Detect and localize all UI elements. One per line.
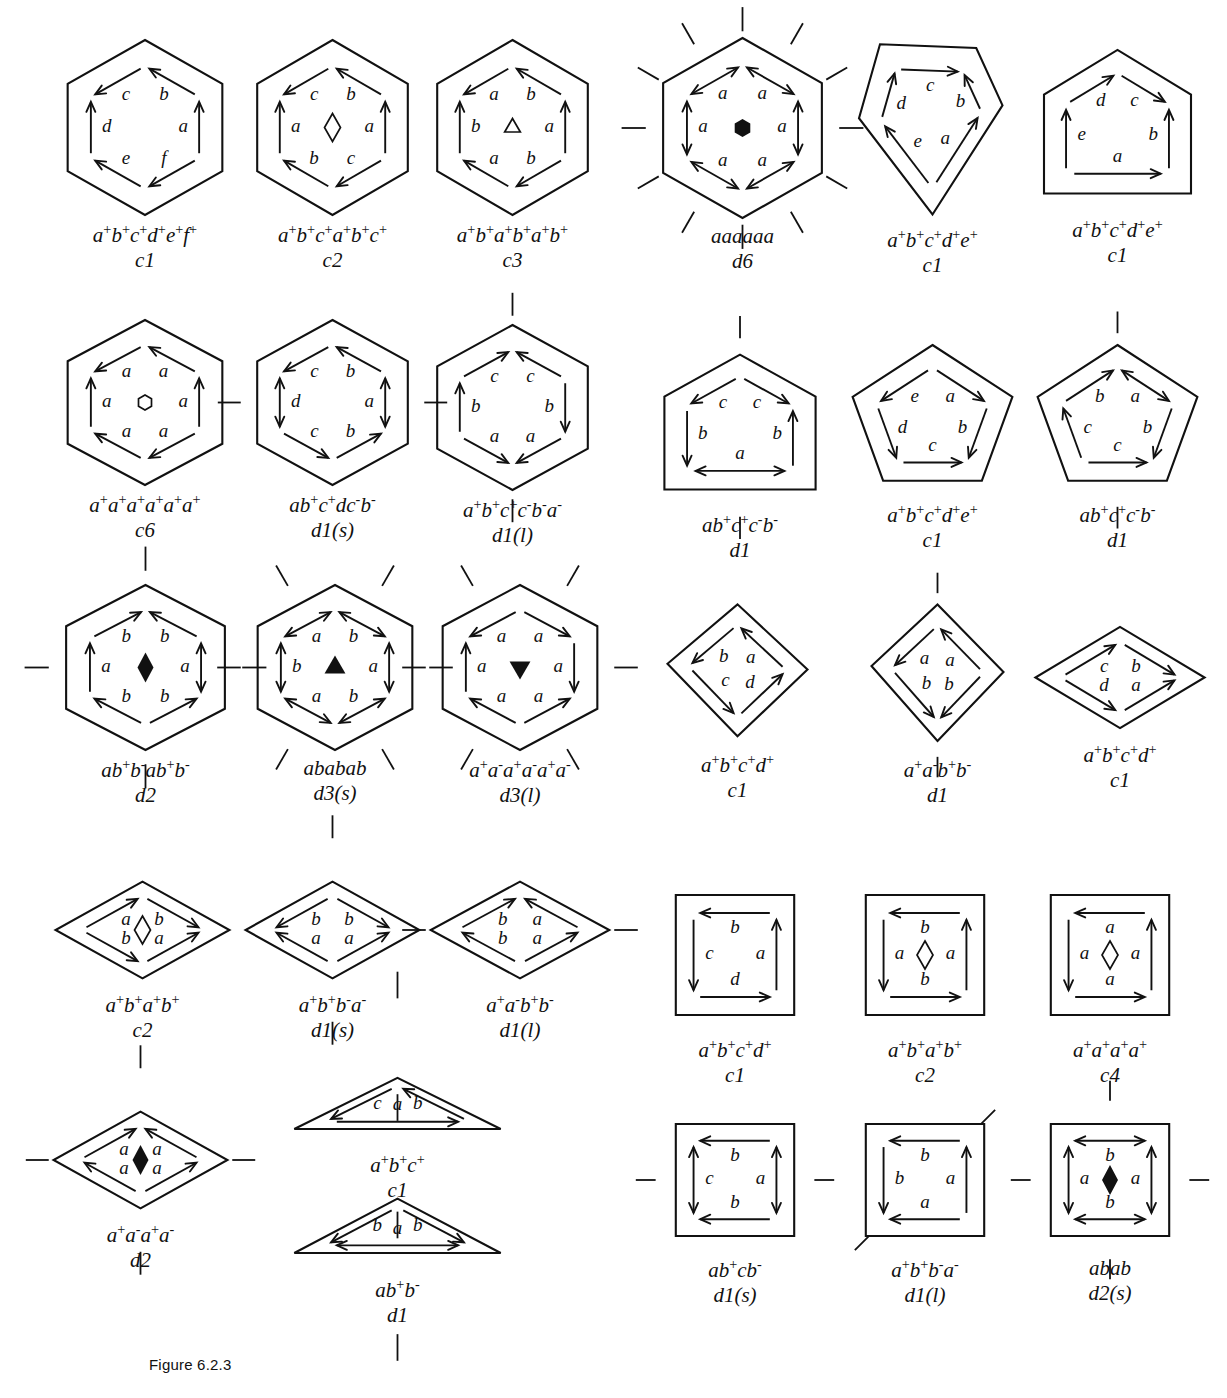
tile-word: a+b+a+b+a+b+ [457,223,568,247]
edge-label: b [160,685,170,706]
tile-caption: ab+c+c-b-d1 [1030,501,1205,553]
edge-label: b [772,422,782,443]
edge-arrow [524,699,569,723]
edge-label: a [159,420,169,441]
edge-label: a [152,1138,162,1159]
mirror-line [791,23,803,44]
edge-label: c [1083,416,1092,437]
edge-label: c [753,391,762,412]
edge-label: c [310,83,319,104]
edge-label: b [895,1167,905,1188]
center-symmetry-mark [135,916,151,944]
edge-label: a [757,149,767,170]
edge-arrow [337,69,381,95]
mirror-line [638,176,659,188]
edge-label: b [730,1191,740,1212]
edge-arrow [901,69,958,71]
edge-label: a [344,927,354,948]
tile-diagram: baba [1002,1082,1218,1278]
tile-word: a+b+c+d+e+f+ [93,223,197,247]
edge-arrow [747,68,794,94]
tile-word: ab+b-ab+b- [101,758,190,782]
tile-symmetry-group: c1 [50,248,240,273]
edge-label: c [719,391,728,412]
tile-t28: babcab+cb-d1(s) [655,1110,815,1278]
edge-label: a [526,425,536,446]
edge-label: a [941,127,951,148]
mirror-line [981,1110,995,1124]
tile-word: ab+c+c-b- [702,513,778,537]
tile-t25: aaaaa+a-a+a-d2 [48,1105,233,1243]
tile-t23: babaa+b+a+b+c2 [845,880,1005,1058]
tile-caption: a+a+a+a+c4 [1030,1036,1190,1088]
tile-word: a+b+a+b+ [888,1038,962,1062]
edge-arrow [1070,76,1113,102]
mirror-line [382,565,394,585]
edge-label: a [178,390,188,411]
edge-label: b [344,908,354,929]
edge-label: b [526,83,536,104]
center-symmetry-mark [1102,941,1118,969]
edge-label: a [122,360,131,381]
tile-diagram: aaaaaa [397,557,643,778]
edge-label: a [1080,942,1090,963]
tile-word: a+a-a+a-a+a- [469,758,570,782]
edge-label: a [477,655,487,676]
tile-t21: aabba+a-b+b-d1(l) [425,875,615,1013]
edge-label: a [756,1167,766,1188]
edge-label: a [920,647,930,668]
edge-label: b [160,625,170,646]
center-symmetry-mark [325,114,341,142]
edge-label: b [159,83,169,104]
tile-word: a+a-b+b- [486,993,554,1017]
mirror-line [567,565,579,585]
tile-symmetry-group: d2(s) [1030,1281,1190,1306]
edge-label: a [553,655,563,676]
tile-word: ababab [304,756,367,780]
tile-symmetry-group: d2 [48,783,243,808]
edge-label: b [292,655,302,676]
edge-label: a [154,927,164,948]
edge-label: a [1131,674,1141,695]
tile-word: a+b+b-a- [891,1258,959,1282]
edge-label: a [1131,942,1141,963]
edge-arrow [464,69,508,95]
edge-label: c [373,1092,382,1113]
edge-label: b [719,645,729,666]
edge-label: b [920,916,930,937]
edge-label: b [346,83,356,104]
tile-caption: a+b+c+d+c1 [650,751,825,803]
edge-arrow [517,439,561,463]
tile-symmetry-group: c1 [1030,768,1210,793]
tile-t9: bccbaaa+b+c+c-b-a-d1(l) [420,325,605,518]
tile-word: a+b+c+a+b+c+ [278,223,387,247]
edge-label: c [928,434,937,455]
edge-label: b [698,422,708,443]
edge-label: a [945,649,955,670]
edge-arrow [331,1089,392,1119]
tile-t11: abcdea+b+c+d+e+c1 [845,345,1020,523]
tile-diagram: aabb [397,847,643,1013]
tile-word: a+b+c+d+e+ [887,228,977,252]
tile-symmetry-group: d6 [645,249,840,274]
tile-t30: babaababd2(s) [1030,1110,1190,1278]
edge-label: b [920,968,930,989]
edge-label: b [956,90,966,111]
edge-label: a [777,115,787,136]
tile-caption: a+a-a+a-a+a-d3(l) [425,756,615,808]
tile-t16: dabca+b+c+d+c1 [650,600,825,773]
tile-t15: aaaaaaa+a-a+a-a+a-d3(l) [425,585,615,778]
tile-diagram: babc [627,1082,843,1278]
edge-arrow [1154,408,1172,457]
polygon-outline [431,882,610,979]
mirror-line [461,565,473,585]
edge-arrow [878,408,896,457]
edge-label: c [721,669,730,690]
edge-arrow [284,69,328,95]
tile-symmetry-group: d1(s) [655,1283,815,1308]
edge-label: a [1105,968,1115,989]
edge-label: a [152,1157,162,1178]
tile-symmetry-group: d3(s) [240,781,430,806]
tile-diagram: aaaa [20,1077,261,1243]
tile-t6: abcdea+b+c+d+e+c1 [1030,45,1205,238]
